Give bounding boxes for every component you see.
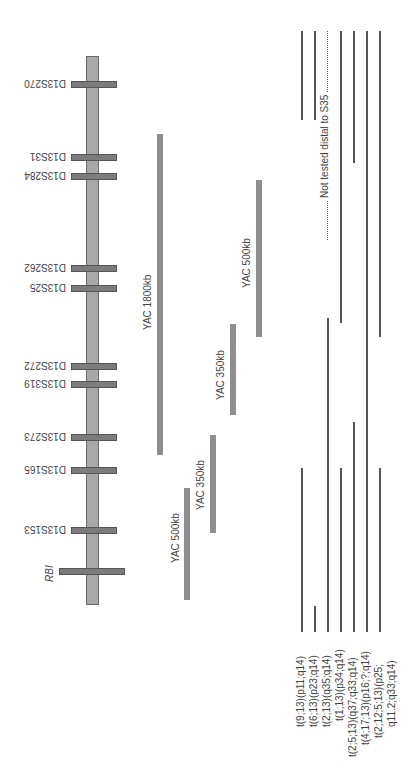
translocation-line-7-top — [379, 31, 381, 337]
translocation-label: t(2;13)(q35;q14) — [321, 655, 332, 727]
translocation-line-4-bottom — [340, 468, 342, 632]
marker-bar-d13s270 — [71, 81, 117, 88]
marker-label: D13S319 — [20, 378, 66, 389]
translocation-line-2-top — [314, 31, 316, 120]
translocation-line-2-bottom — [314, 606, 316, 632]
translocation-line-1-top — [301, 31, 303, 120]
translocation-line-7-bottom — [379, 468, 381, 632]
yac-bar-350kb-upper — [230, 324, 236, 415]
marker-bar-d13s273 — [71, 434, 117, 441]
marker-bar-d13s31 — [71, 154, 117, 161]
translocation-line-6 — [366, 31, 368, 632]
marker-label: D13S25 — [20, 282, 66, 293]
translocation-label: t(1;13)(p34;q14) — [334, 649, 345, 721]
gene-bar-rbi — [59, 568, 125, 575]
chromosome-13-bar — [86, 56, 99, 605]
yac-label-350kb-lower: YAC 350kb — [195, 460, 206, 510]
yac-bar-1800kb — [157, 134, 163, 455]
yac-label-500kb-upper: YAC 500kb — [241, 238, 252, 288]
marker-label: D13S273 — [20, 431, 66, 442]
gene-label-rbi: RBI — [44, 565, 55, 582]
translocation-line-3-bottom — [327, 318, 329, 632]
yac-label-500kb-lower: YAC 500kb — [170, 513, 181, 563]
marker-label: D13S262 — [20, 262, 66, 273]
translocation-line-4-top — [340, 31, 342, 323]
yac-label-350kb-upper: YAC 350kb — [215, 350, 226, 400]
not-tested-annotation: Not tested distal to S35 — [319, 93, 330, 200]
translocation-label: t(2;5;13)(q37;q33;q14) — [347, 657, 358, 757]
translocation-label: q11.2;q33;q14) — [386, 660, 397, 727]
marker-label: D13S272 — [20, 360, 66, 371]
yac-bar-350kb-lower — [210, 435, 216, 533]
marker-bar-d13s25 — [71, 285, 117, 292]
marker-label: D13S270 — [20, 78, 66, 89]
translocation-line-5-bottom — [353, 422, 355, 632]
marker-label: D13S153 — [20, 524, 66, 535]
marker-bar-d13s262 — [71, 265, 117, 272]
yac-bar-500kb-upper — [256, 180, 262, 337]
translocation-label: t(2;12;5;13)(p25; — [373, 664, 384, 738]
yac-bar-500kb-lower — [184, 488, 190, 600]
marker-bar-d13s153 — [71, 527, 117, 534]
translocation-line-5-top — [353, 31, 355, 163]
marker-label: D13S284 — [20, 170, 66, 181]
marker-label: D13S31 — [20, 151, 66, 162]
marker-bar-d13s272 — [71, 363, 117, 370]
marker-label: D13S165 — [20, 464, 66, 475]
yac-label-1800kb: YAC 1800kb — [142, 275, 153, 330]
translocation-label: t(9;13)(p11;q14) — [295, 656, 306, 727]
translocation-label: t(4;17;13)(p16;?;q14) — [360, 651, 371, 745]
marker-bar-d13s284 — [71, 173, 117, 180]
translocation-line-1-bottom — [301, 468, 303, 632]
translocation-label: t(6;13)(p23;q14) — [308, 655, 319, 727]
marker-bar-d13s165 — [71, 467, 117, 474]
marker-bar-d13s319 — [71, 381, 117, 388]
